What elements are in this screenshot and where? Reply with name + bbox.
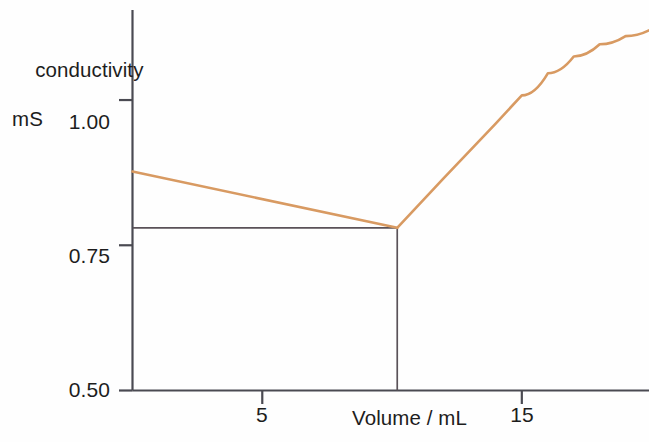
x-tick-label-5: 5 (242, 403, 282, 428)
conductivity-titration-chart: conductivity mS 1.00 0.75 0.50 5 15 Volu… (0, 0, 649, 442)
y-tick-label-0.75: 0.75 (32, 244, 110, 269)
curve-rising-branch (397, 30, 649, 228)
y-axis-title: conductivity mS (12, 34, 144, 179)
y-tick-label-0.50: 0.50 (32, 378, 110, 403)
y-axis-title-line1: conductivity (35, 58, 143, 81)
y-tick-label-1.00: 1.00 (32, 110, 110, 135)
x-axis-title: Volume / mL (352, 406, 467, 430)
curve-descending-branch (133, 172, 398, 228)
x-tick-label-15: 15 (502, 403, 542, 428)
